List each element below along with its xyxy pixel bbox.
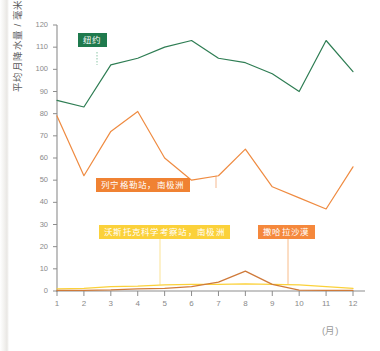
series-line-0 [57, 41, 353, 108]
series-label-leningradskaya: 列宁格勒站，南极洲 [96, 178, 190, 192]
plot-area [0, 0, 380, 351]
series-label-sahara: 撒哈拉沙漠 [258, 225, 315, 239]
precipitation-chart: 平均月降水量 / 毫米 0102030405060708090100110120… [0, 0, 380, 351]
series-line-1 [57, 111, 353, 209]
series-label-new-york: 纽约 [78, 33, 107, 47]
series-label-vostok: 沃斯托克科学考察站，南极洲 [99, 225, 230, 239]
x-axis-title: (月) [322, 323, 338, 337]
